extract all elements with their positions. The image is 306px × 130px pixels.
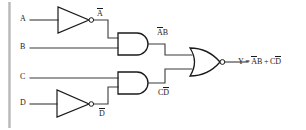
input-label-d: D — [20, 99, 26, 107]
inverter-d-shape — [57, 90, 94, 117]
output-equals: = — [244, 57, 252, 66]
output-term2-overbar: D — [275, 56, 281, 66]
input-label-a: A — [20, 15, 26, 23]
output-plus: + — [262, 57, 270, 66]
output-expression: Y=AB+CD — [238, 56, 281, 66]
node-label-and-bottom-overbar: D — [163, 87, 169, 97]
output-y-symbol: Y — [238, 57, 244, 66]
nor-gate-output-shape — [190, 48, 225, 76]
node-label-and-top-rest: B — [163, 28, 168, 37]
input-label-b: B — [20, 43, 25, 51]
node-label-not-d-text: D — [99, 108, 105, 118]
node-label-not-a-text: A — [97, 8, 103, 18]
node-label-and-top: AB — [157, 27, 168, 37]
and-gate-top-shape — [118, 33, 148, 55]
wire-and-bottom-to-or — [148, 69, 192, 83]
wire-not-d-to-and — [93, 87, 118, 104]
inverter-a-shape — [58, 7, 94, 33]
wire-not-a-to-and — [93, 20, 118, 38]
wire-and-top-to-or — [148, 44, 192, 55]
node-label-not-a: A — [97, 8, 103, 18]
node-label-not-d: D — [99, 108, 105, 118]
and-gate-bottom-shape — [118, 72, 148, 94]
circuit-diagram-canvas: A B C D A AB D CD Y=AB+CD — [0, 0, 306, 130]
node-label-and-bottom: CD — [158, 87, 169, 97]
input-label-c: C — [20, 73, 25, 81]
